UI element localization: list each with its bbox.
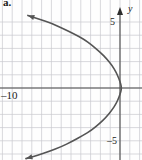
coordinate-plane: [0, 0, 142, 160]
curve-arrow-top-icon: [28, 15, 35, 20]
y-axis-arrow-icon: [117, 7, 123, 15]
part-label: a.: [3, 0, 11, 8]
figure-panel: a. y 5 –5 –10: [0, 0, 142, 160]
tick-label-y-5: 5: [110, 17, 115, 27]
tick-label-y-negative-5: –5: [107, 136, 117, 146]
y-axis-label: y: [128, 4, 132, 14]
tick-label-x-negative-10: –10: [1, 90, 18, 100]
